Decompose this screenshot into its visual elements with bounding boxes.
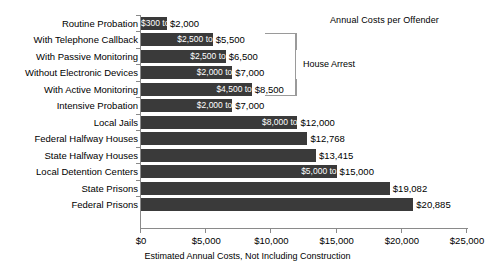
bar <box>141 198 413 211</box>
annotation-bracket-stub-bottom <box>296 79 297 96</box>
category-label: State Prisons <box>82 183 139 194</box>
bar-value-label: $2,000 <box>167 18 199 29</box>
category-label: Without Electronic Devices <box>25 67 138 78</box>
category-label: With Active Monitoring <box>44 84 138 95</box>
bar-value-label: $19,082 <box>390 183 427 194</box>
bar-value-label: $12,768 <box>307 133 344 144</box>
y-tick <box>136 15 140 16</box>
bar-range-start-label: $300 to <box>141 18 169 29</box>
bar-row: $300 to$2,000 <box>141 17 467 30</box>
annotation-label: House Arrest <box>303 59 355 69</box>
bar-range-start-label: $4,500 to <box>141 84 254 95</box>
x-tick <box>270 229 271 233</box>
category-label: Federal Prisons <box>71 199 138 210</box>
bar-value-label: $12,000 <box>297 117 334 128</box>
x-tick <box>140 229 141 233</box>
y-axis-line <box>140 15 141 228</box>
y-tick <box>136 163 140 164</box>
y-tick <box>136 64 140 65</box>
x-axis-title: Estimated Annual Costs, Not Including Co… <box>0 251 495 261</box>
bar-value-label: $15,000 <box>337 166 374 177</box>
bar-value-label: $13,415 <box>316 150 353 161</box>
bar-range-start-label: $2,500 to <box>141 34 215 45</box>
bar-range-start-label: $2,000 to <box>141 67 234 78</box>
plot-area: $300 to$2,000$2,500 to$5,500$2,500 to$6,… <box>141 15 467 227</box>
bar-row: $20,885 <box>141 198 467 211</box>
y-tick <box>136 114 140 115</box>
x-tick-label: $15,000 <box>319 235 353 246</box>
bar <box>141 132 307 145</box>
bar-value-label: $7,000 <box>232 67 264 78</box>
category-label: Intensive Probation <box>57 100 138 111</box>
y-tick <box>136 97 140 98</box>
bar-row: $4,500 to$8,500 <box>141 83 467 96</box>
category-label: With Telephone Callback <box>34 34 138 45</box>
bar-row: $19,082 <box>141 182 467 195</box>
category-label: Routine Probation <box>62 18 138 29</box>
x-tick-label: $20,000 <box>385 235 419 246</box>
x-tick-label: $5,000 <box>192 235 221 246</box>
bar-row: $2,000 to$7,000 <box>141 99 467 112</box>
bar-row: $5,000 to$15,000 <box>141 165 467 178</box>
category-label: Local Detention Centers <box>36 166 138 177</box>
bar-row: $13,415 <box>141 149 467 162</box>
y-tick <box>136 130 140 131</box>
annotation-bracket-stub-top <box>296 33 297 50</box>
x-tick-label: $10,000 <box>254 235 288 246</box>
bar-range-start-label: $2,500 to <box>141 51 228 62</box>
y-tick <box>136 147 140 148</box>
bar-row: $8,000 to$12,000 <box>141 116 467 129</box>
chart-container: Annual Costs per Offender Routine Probat… <box>0 0 495 270</box>
x-tick-label: $0 <box>136 235 147 246</box>
bar-value-label: $20,885 <box>413 199 450 210</box>
x-tick-label: $25,000 <box>450 235 484 246</box>
bar-row: $2,500 to$5,500 <box>141 33 467 46</box>
x-tick <box>401 229 402 233</box>
x-axis-line <box>140 228 468 229</box>
y-tick <box>136 81 140 82</box>
bar-value-label: $5,500 <box>213 34 245 45</box>
bar-row: $12,768 <box>141 132 467 145</box>
bar-range-start-label: $8,000 to <box>141 117 299 128</box>
category-label: Federal Halfway Houses <box>35 133 139 144</box>
y-tick <box>136 48 140 49</box>
bar <box>141 149 316 162</box>
y-tick <box>136 180 140 181</box>
annotation-bracket <box>265 33 296 96</box>
category-label: State Halfway Houses <box>45 150 138 161</box>
x-tick <box>205 229 206 233</box>
y-tick <box>136 196 140 197</box>
category-label: Local Jails <box>94 117 138 128</box>
bar-value-label: $6,500 <box>226 51 258 62</box>
bar-range-start-label: $2,000 to <box>141 100 234 111</box>
bar-value-label: $7,000 <box>232 100 264 111</box>
bar-range-start-label: $5,000 to <box>141 166 339 177</box>
category-label: With Passive Monitoring <box>36 51 138 62</box>
bar <box>141 182 390 195</box>
y-tick <box>136 31 140 32</box>
x-tick <box>466 229 467 233</box>
x-tick <box>336 229 337 233</box>
